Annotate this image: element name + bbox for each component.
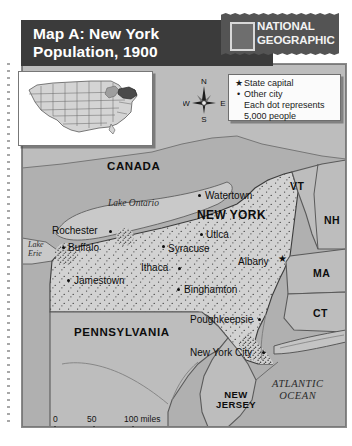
legend-row-city: • Other city — [233, 89, 340, 100]
legend-label-city: Other city — [244, 89, 283, 100]
city-label-syracuse: Syracuse — [168, 243, 210, 254]
map-label-new-york: NEW YORK — [197, 208, 266, 222]
national-geographic-logo: NATIONAL GEOGRAPHIC — [221, 12, 339, 56]
scale-miles-labels: 0 50 100 miles — [53, 414, 203, 425]
map-label-lake-ontario: Lake Ontario — [108, 198, 159, 208]
legend-row-capital: ★ State capital — [233, 78, 340, 89]
other-city-dot-icon: • — [233, 89, 244, 100]
map-legend: ★ State capital • Other city Each dot re… — [228, 74, 341, 121]
map-label-ct: CT — [313, 307, 328, 319]
city-label-rochester: Rochester — [52, 225, 98, 236]
compass-rose: N E W S — [183, 74, 227, 124]
natgeo-yellow-border-icon — [230, 22, 255, 51]
scale-miles-zero: 0 — [53, 414, 58, 424]
scale-bar-graphic — [53, 425, 203, 428]
scale-miles-max: 100 miles — [124, 414, 160, 424]
city-label-jamestown: Jamestown — [74, 275, 125, 286]
map-label-new-jersey: NEW JERSEY — [216, 390, 256, 410]
map-page: CANADA NEW YORK PENNSYLVANIA VT NH MA CT… — [0, 0, 352, 446]
city-label-albany: Albany — [238, 256, 269, 267]
scale-miles-mid: 50 — [87, 414, 96, 424]
map-label-lake-erie: Lake Erie — [28, 240, 44, 258]
page-perforation-dots — [7, 63, 10, 427]
map-label-ma: MA — [313, 267, 330, 279]
map-label-canada: CANADA — [107, 160, 160, 172]
svg-text:W: W — [183, 99, 190, 108]
city-label-utica: Utica — [206, 229, 229, 240]
map-label-pennsylvania: PENNSYLVANIA — [74, 326, 170, 338]
svg-text:E: E — [220, 99, 225, 108]
map-label-vt: VT — [290, 180, 304, 192]
map-label-nh: NH — [324, 214, 340, 226]
legend-dot-value-note: Each dot represents 5,000 people — [244, 100, 340, 121]
us-locator-inset-map — [18, 71, 153, 146]
map-scale: 0 50 100 miles 0 50 100 kilometers — [53, 414, 203, 428]
city-label-ithaca: Ithaca — [141, 262, 168, 273]
city-label-poughkeepsie: Poughkeepsie — [190, 314, 253, 325]
logo-wordmark: NATIONAL GEOGRAPHIC — [257, 20, 335, 47]
state-capital-star-icon: ★ — [233, 78, 244, 89]
us-locator-graphic — [19, 72, 150, 143]
city-label-watertown: Watertown — [205, 190, 252, 201]
svg-text:N: N — [201, 77, 207, 86]
legend-label-capital: State capital — [244, 78, 294, 89]
city-label-new-york-city: New York City — [190, 347, 252, 358]
svg-text:S: S — [201, 115, 206, 124]
city-label-buffalo: Buffalo — [68, 242, 99, 253]
map-label-atlantic-ocean: ATLANTIC OCEAN — [272, 378, 323, 402]
city-label-binghamton: Binghamton — [184, 284, 237, 295]
city-star-albany: ★ — [278, 254, 287, 264]
